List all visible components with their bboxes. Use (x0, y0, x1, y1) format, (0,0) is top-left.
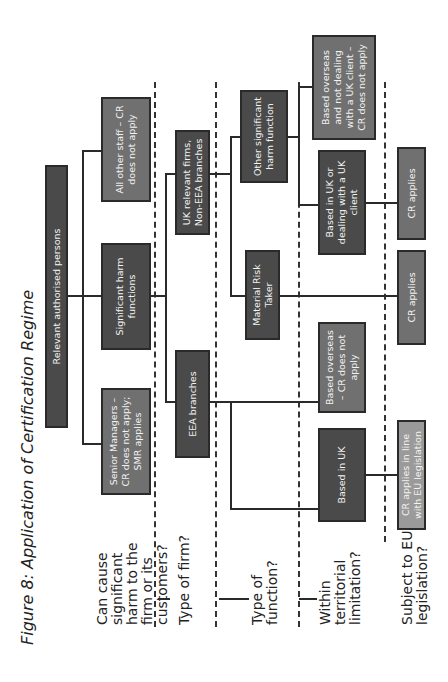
question-type-of-firm: Type of firm? (177, 535, 192, 625)
connector-eea (165, 401, 175, 403)
connector-mrt (230, 295, 245, 297)
node-based-overseas-cr-not-apply: Based overseas – CR does not apply (318, 322, 366, 413)
node-uk-relevant-firms: UK relevant firms, Non-EEA branches (175, 130, 210, 235)
connector-osh (230, 136, 240, 138)
separator-1 (154, 82, 156, 627)
connector-bukd-down (366, 202, 397, 204)
connector-level2 (165, 173, 167, 403)
connector-aos (82, 150, 101, 152)
connector-eea-split (230, 402, 232, 510)
connector-bukd (298, 204, 318, 206)
question-eu-legislation: Subject to EU legislation? (400, 515, 430, 625)
connector-osh-split (298, 86, 300, 206)
connector-eea-overseas (230, 401, 318, 403)
question-type-of-function: Type of function? (250, 535, 280, 625)
question-territorial-limitation: Within territorial limitation? (318, 535, 363, 625)
connector-root (68, 295, 83, 297)
node-material-risk-taker: Material Risk Taker (245, 250, 280, 340)
arrow-2-stem (219, 598, 249, 600)
connector-uk (165, 173, 175, 175)
connector-sm (82, 443, 101, 445)
question-significant-harm: Can cause significant harm to the firm o… (95, 530, 170, 625)
node-cr-applies-eu: CR applies in line with EU legislation (397, 420, 426, 530)
connector-uk-split (230, 137, 232, 297)
figure-title: Figure 8: Application of Certification R… (18, 290, 37, 645)
separator-2 (215, 82, 217, 627)
node-based-uk-or-dealing: Based in UK or dealing with a UK client (318, 150, 366, 255)
arrow-3-stem (299, 598, 317, 600)
connector-level1 (82, 150, 84, 445)
node-based-overseas-not-dealing: Based overseas and not dealing with a UK… (312, 35, 376, 140)
node-cr-applies-uk: CR applies (397, 147, 426, 240)
node-significant-harm-functions: Significant harm functions (101, 243, 151, 350)
separator-4 (384, 82, 386, 542)
connector-eea-down (210, 401, 231, 403)
connector-sh-down (151, 295, 166, 297)
connector-buk-down (366, 474, 397, 476)
connector-mrt-down (280, 295, 397, 297)
node-eea-branches: EEA branches (175, 350, 210, 458)
node-based-in-uk: Based in UK (318, 428, 366, 522)
certification-regime-diagram: Figure 8: Application of Certification R… (0, 0, 448, 682)
node-other-significant-harm: Other significant harm function (240, 90, 288, 183)
node-relevant-authorised-persons: Relevant authorised persons (45, 165, 68, 428)
connector-osh-down (288, 136, 298, 138)
connector-bond (298, 86, 312, 88)
connector-uk-down (210, 173, 231, 175)
node-all-other-staff: All other staff – CR does not apply (101, 97, 151, 202)
node-cr-applies-mrt: CR applies (397, 250, 426, 345)
arrow-1-stem (158, 598, 170, 600)
connector-sh (82, 295, 101, 297)
node-senior-managers: Senior Managers – CR does not apply; SMR… (101, 388, 151, 495)
